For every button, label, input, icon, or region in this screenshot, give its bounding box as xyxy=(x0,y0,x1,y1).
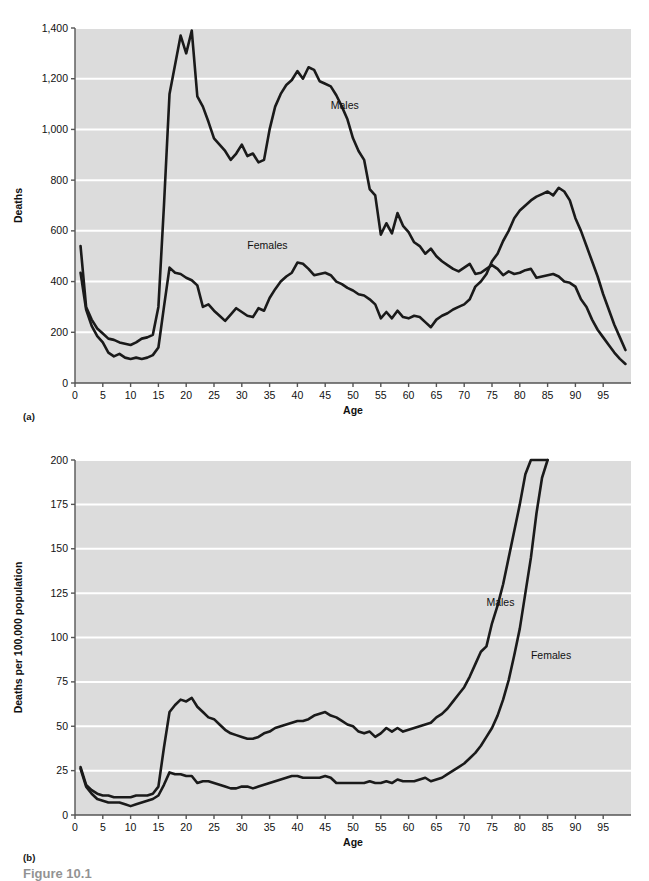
xtick-label: 20 xyxy=(180,389,192,401)
xtick-label: 80 xyxy=(514,821,526,833)
plot-area-background xyxy=(75,28,631,383)
ytick-label: 1,200 xyxy=(42,72,68,84)
ytick-label: 200 xyxy=(50,454,68,466)
xtick-label: 45 xyxy=(319,821,331,833)
ytick-label: 800 xyxy=(50,174,68,186)
ytick-label: 50 xyxy=(56,720,68,732)
x-axis-title: Age xyxy=(343,836,363,848)
xtick-label: 40 xyxy=(292,821,304,833)
xtick-label: 95 xyxy=(597,389,609,401)
ytick-label: 200 xyxy=(50,326,68,338)
ytick-label: 75 xyxy=(56,675,68,687)
xtick-label: 65 xyxy=(431,821,443,833)
xtick-label: 0 xyxy=(72,389,78,401)
ytick-label: 125 xyxy=(50,587,68,599)
ytick-label: 175 xyxy=(50,498,68,510)
xtick-label: 65 xyxy=(431,389,443,401)
xtick-label: 95 xyxy=(597,821,609,833)
series-annotation-females: Females xyxy=(531,649,571,661)
ytick-label: 1,000 xyxy=(42,123,68,135)
xtick-label: 50 xyxy=(347,389,359,401)
xtick-label: 0 xyxy=(72,821,78,833)
xtick-label: 30 xyxy=(236,821,248,833)
chart-panel-b: 0255075100125150175200051015202530354045… xyxy=(0,440,649,874)
xtick-label: 25 xyxy=(208,389,220,401)
ytick-label: 150 xyxy=(50,542,68,554)
xtick-label: 10 xyxy=(125,389,137,401)
ytick-label: 0 xyxy=(62,377,68,389)
xtick-label: 20 xyxy=(180,821,192,833)
xtick-label: 55 xyxy=(375,821,387,833)
xtick-label: 55 xyxy=(375,389,387,401)
xtick-label: 85 xyxy=(542,821,554,833)
xtick-label: 30 xyxy=(236,389,248,401)
xtick-label: 25 xyxy=(208,821,220,833)
xtick-label: 5 xyxy=(100,821,106,833)
xtick-label: 75 xyxy=(486,821,498,833)
xtick-label: 50 xyxy=(347,821,359,833)
xtick-label: 35 xyxy=(264,821,276,833)
xtick-label: 35 xyxy=(264,389,276,401)
series-annotation-males: Males xyxy=(486,596,514,608)
ytick-label: 600 xyxy=(50,224,68,236)
xtick-label: 10 xyxy=(125,821,137,833)
chart-panel-a: 02004006008001,0001,2001,400051015202530… xyxy=(0,0,649,440)
xtick-label: 80 xyxy=(514,389,526,401)
chart-a-svg: 02004006008001,0001,2001,400051015202530… xyxy=(0,0,649,440)
x-axis-title: Age xyxy=(343,404,363,416)
series-annotation-males: Males xyxy=(331,99,359,111)
xtick-label: 75 xyxy=(486,389,498,401)
ytick-label: 100 xyxy=(50,631,68,643)
series-annotation-females: Females xyxy=(247,239,287,251)
panel-a-tag: (a) xyxy=(23,411,35,422)
xtick-label: 70 xyxy=(458,389,470,401)
xtick-label: 45 xyxy=(319,389,331,401)
ytick-label: 400 xyxy=(50,275,68,287)
y-axis-title: Deaths xyxy=(12,188,24,223)
xtick-label: 60 xyxy=(403,821,415,833)
panel-b-tag: (b) xyxy=(23,852,36,863)
ytick-label: 25 xyxy=(56,764,68,776)
chart-b-svg: 0255075100125150175200051015202530354045… xyxy=(0,440,649,874)
xtick-label: 85 xyxy=(542,389,554,401)
ytick-label: 1,400 xyxy=(42,22,68,34)
xtick-label: 40 xyxy=(292,389,304,401)
xtick-label: 90 xyxy=(570,821,582,833)
xtick-label: 70 xyxy=(458,821,470,833)
xtick-label: 15 xyxy=(153,389,165,401)
xtick-label: 60 xyxy=(403,389,415,401)
y-axis-title: Deaths per 100,000 population xyxy=(12,562,24,714)
ytick-label: 0 xyxy=(62,809,68,821)
figure-caption: Figure 10.1 xyxy=(23,866,92,881)
xtick-label: 5 xyxy=(100,389,106,401)
xtick-label: 90 xyxy=(570,389,582,401)
xtick-label: 15 xyxy=(153,821,165,833)
